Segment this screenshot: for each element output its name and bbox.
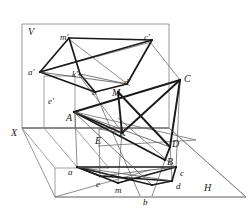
point-m [117,182,119,184]
figure-canvas: V X H m' c' a' k' d' b M e' C A K E D B … [0,0,252,217]
ray-cp-to-C [150,42,180,80]
conn-A-b-thin [74,112,152,185]
line-dp-bp [95,84,127,92]
conn-e-c-thin [100,167,176,176]
point-mp [68,37,70,39]
point-K [121,132,123,134]
point-cp [151,39,153,41]
line-ap-cp [40,40,152,72]
projection-rays [40,40,196,197]
ray-mp-to-dp [70,40,130,86]
point-bp [94,91,96,93]
point-M [117,91,119,93]
line-D-B [165,147,170,160]
space-triangle [74,80,180,160]
point-markers [39,37,181,186]
line-ap-mp [40,38,69,72]
point-d [171,180,173,182]
ray-hplane-left [55,170,150,197]
point-D [169,146,171,148]
point-ap [39,71,41,73]
box-depth-mid [75,128,109,168]
point-A [73,111,75,113]
ray-A-to-a [75,112,77,166]
point-a [76,166,78,168]
point-B [164,159,166,161]
point-kp [79,73,81,75]
plane-frames [22,24,246,197]
point-b [151,184,153,186]
box-depth-left [44,128,78,168]
ray-K-to-m [118,132,122,182]
point-c [175,166,177,168]
line-mp-cp [69,38,152,40]
h-right-edge [169,128,246,197]
horizontal-plane-outline [22,128,246,197]
conn-A-D-thin [74,112,170,147]
line-c-d [172,167,176,181]
point-C [179,79,181,81]
point-e [99,175,101,177]
point-dp [126,83,128,85]
projection-drawing [0,0,252,217]
